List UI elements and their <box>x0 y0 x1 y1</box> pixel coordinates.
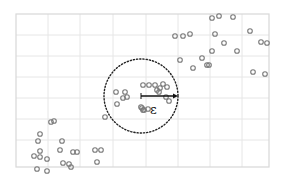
plot-frame <box>16 14 269 167</box>
data-point <box>115 102 120 107</box>
data-point <box>173 34 178 39</box>
data-point <box>99 148 104 153</box>
data-point <box>32 154 37 159</box>
data-point <box>123 90 128 95</box>
data-point <box>60 139 65 144</box>
data-points <box>32 14 270 174</box>
data-point <box>45 157 50 162</box>
scatter-plot: ε <box>0 0 283 188</box>
data-point <box>45 169 50 174</box>
data-point <box>58 148 63 153</box>
data-point <box>38 149 43 154</box>
data-point <box>38 132 43 137</box>
data-point <box>95 160 100 165</box>
data-point <box>259 40 264 45</box>
data-point <box>114 90 119 95</box>
data-point <box>147 83 152 88</box>
data-point <box>165 85 170 90</box>
data-point <box>38 155 43 160</box>
data-point <box>222 41 227 46</box>
grid-lines <box>16 14 269 167</box>
data-point <box>248 29 253 34</box>
data-point <box>141 83 146 88</box>
data-point <box>36 139 41 144</box>
data-point <box>153 83 158 88</box>
data-point <box>181 34 186 39</box>
data-point <box>93 148 98 153</box>
data-point <box>167 99 172 104</box>
data-point <box>251 70 256 75</box>
data-point <box>235 49 240 54</box>
epsilon-label: ε <box>150 102 157 117</box>
data-point <box>49 120 54 125</box>
dbscan-epsilon-diagram: ε <box>0 0 283 188</box>
data-point <box>191 66 196 71</box>
data-point <box>213 32 218 37</box>
data-point <box>231 15 236 20</box>
data-point <box>263 72 268 77</box>
data-point <box>188 32 193 37</box>
data-point <box>61 161 66 166</box>
